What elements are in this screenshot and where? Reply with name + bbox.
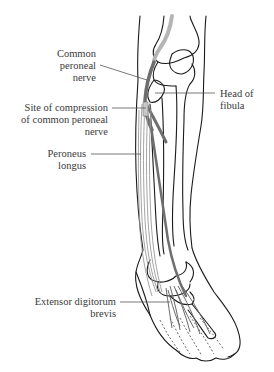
label-line: Common	[36, 48, 96, 60]
label-site-of-compression: Site of compression of common peroneal n…	[2, 102, 108, 138]
label-line: Head of	[220, 88, 254, 100]
tibia-shaft	[183, 64, 195, 250]
leader-common-peroneal-nerve	[100, 65, 147, 80]
anatomy-figure: Common peroneal nerve Head of fibula Sit…	[0, 0, 274, 372]
label-line: brevis	[14, 308, 116, 320]
foot-outline	[150, 315, 234, 361]
leg-outline-right	[190, 16, 240, 357]
leg-outline-left	[136, 16, 150, 315]
label-line: Peroneus	[30, 148, 86, 160]
label-extensor-digitorum-brevis: Extensor digitorum brevis	[14, 296, 116, 320]
label-line: Extensor digitorum	[14, 296, 116, 308]
label-line: Site of compression	[2, 102, 108, 114]
label-common-peroneal-nerve: Common peroneal nerve	[36, 48, 96, 84]
label-head-of-fibula: Head of fibula	[220, 88, 254, 112]
femur-icon	[153, 16, 199, 64]
fibula-shaft	[162, 98, 164, 254]
label-line: peroneal	[36, 60, 96, 72]
label-line: fibula	[220, 100, 254, 112]
label-line: longus	[30, 160, 86, 172]
label-line: of common peroneal	[2, 114, 108, 126]
label-peroneus-longus: Peroneus longus	[30, 148, 86, 172]
label-line: nerve	[2, 126, 108, 138]
label-line: nerve	[36, 72, 96, 84]
